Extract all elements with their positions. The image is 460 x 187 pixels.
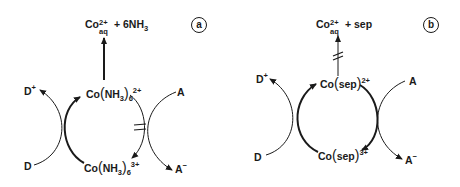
acceptor-reduced-a: A− — [175, 164, 187, 175]
panel-badge-b: b — [423, 17, 439, 33]
product-label-b: Co2+aq + sep — [316, 19, 372, 30]
oxidation-arrow-b — [360, 85, 378, 150]
top-complex-b: Co(sep)2+ — [320, 76, 370, 90]
acceptor-a: A — [177, 87, 185, 98]
panel-a-arrows — [34, 38, 176, 170]
acceptor-arrow-b — [378, 81, 405, 159]
donor-oxidized-a: D+ — [24, 86, 36, 97]
reduction-arrow-b — [297, 84, 318, 152]
donor-oxidized-b: D+ — [256, 74, 268, 85]
product-label-a: Co2+aq + 6NH3 — [85, 19, 148, 30]
top-complex-a: Co(NH3)62+ — [86, 86, 141, 100]
acceptor-reduced-b: A− — [405, 155, 417, 166]
donor-a: D — [24, 161, 32, 172]
reduction-arrow-a — [65, 97, 84, 163]
acceptor-arrow-a — [148, 92, 176, 170]
donor-arrow-a — [34, 90, 62, 165]
bottom-complex-a: Co(NH3)63+ — [84, 160, 139, 174]
acceptor-b: A — [409, 76, 417, 87]
panel-b-arrows — [266, 36, 405, 159]
bottom-complex-b: Co(sep)3+ — [318, 148, 368, 162]
panel-badge-a: a — [191, 17, 207, 33]
oxidation-arrow-a — [130, 95, 145, 158]
donor-b: D — [254, 152, 262, 163]
diagram-arrows — [0, 0, 460, 187]
donor-arrow-b — [266, 79, 293, 155]
